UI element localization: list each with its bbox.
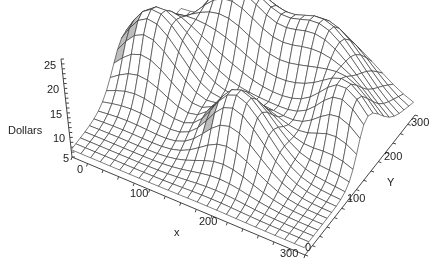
x-tick-300: 300: [280, 248, 298, 259]
x-tick-100: 100: [130, 188, 148, 199]
z-tick-10: 10: [53, 133, 65, 144]
x-tick-0: 0: [77, 164, 83, 175]
y-axis-label: Y: [387, 177, 394, 188]
z-axis-label: Dollars: [8, 125, 42, 136]
y-tick-0: 0: [305, 242, 311, 253]
z-tick-25: 25: [44, 60, 56, 71]
surface-plot-canvas: [0, 0, 437, 270]
x-tick-200: 200: [199, 216, 217, 227]
z-tick-15: 15: [50, 109, 62, 120]
x-axis-label: x: [174, 227, 180, 238]
y-tick-100: 100: [347, 193, 365, 204]
y-tick-200: 200: [384, 151, 402, 162]
z-tick-20: 20: [47, 84, 59, 95]
z-tick-5: 5: [63, 153, 69, 164]
y-tick-300: 300: [411, 117, 429, 128]
